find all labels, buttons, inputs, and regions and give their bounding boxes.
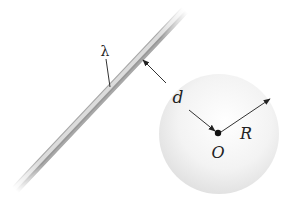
- diagram-canvas: λ d R O: [0, 0, 300, 205]
- radius-label: R: [240, 126, 252, 142]
- diagram-svg: [0, 0, 300, 205]
- center-label: O: [211, 145, 224, 161]
- line-charge-rod: [14, 9, 186, 191]
- center-point: [215, 130, 221, 136]
- lambda-leader-line: [106, 59, 110, 87]
- distance-label: d: [173, 89, 184, 106]
- lambda-label: λ: [101, 44, 110, 58]
- distance-arrow-upper: [143, 60, 166, 83]
